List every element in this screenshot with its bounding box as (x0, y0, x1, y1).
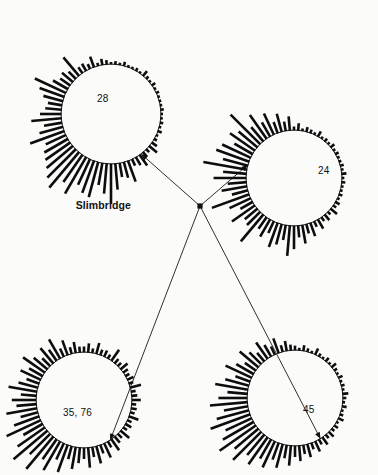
rose-bar (100, 445, 103, 454)
rose-outline-circle (246, 130, 342, 226)
rose-diagram-canvas: 282435, 7645Slimbridge (0, 0, 378, 475)
rose-bar (251, 127, 263, 142)
rose-bar (70, 347, 72, 354)
rose-bar (124, 162, 128, 178)
rose-bar (96, 343, 99, 354)
rose-bar (325, 214, 330, 220)
rose-bar (232, 190, 248, 194)
rose-bar (125, 424, 131, 428)
rose-bar (271, 347, 275, 355)
rose-bar (68, 446, 72, 459)
rose-bar (231, 115, 261, 145)
rose-bar (108, 441, 112, 447)
rose-bar (227, 392, 247, 394)
rose-outline-circle (36, 352, 132, 448)
rose-bar (21, 394, 37, 395)
rose-bar (14, 416, 39, 425)
rose-bar (264, 114, 274, 135)
rose-outline-circle (247, 350, 343, 446)
rose-bottom-right (210, 338, 348, 467)
rose-bar (92, 447, 94, 457)
rose-bar (260, 219, 270, 236)
rose-bar (74, 342, 76, 353)
rose-count-label: 28 (97, 93, 109, 104)
rose-bar (311, 443, 313, 450)
rose-bar (281, 345, 283, 352)
rose-bar (315, 441, 320, 451)
rose-bar (26, 379, 39, 384)
rose-bar (284, 445, 286, 458)
rose-bar (247, 212, 260, 225)
rose-bar (45, 108, 61, 109)
rose-count-label: 45 (303, 404, 315, 415)
rose-bar (78, 67, 82, 73)
rose-bar (228, 182, 247, 184)
rose-bar (274, 122, 278, 133)
rose-bar (44, 123, 62, 126)
rose-bar (222, 186, 248, 191)
rose-bar (88, 447, 90, 467)
rose-bar (82, 64, 86, 71)
rose-bar (60, 349, 64, 357)
rose-bar (136, 157, 141, 165)
rose-bar (21, 370, 41, 380)
labels-layer: 282435, 7645Slimbridge (63, 93, 330, 418)
rose-bar (284, 122, 286, 132)
rose-bar (224, 406, 248, 410)
rose-bar (223, 172, 247, 174)
rose-bar (120, 163, 123, 177)
rose-bar (289, 445, 291, 465)
rose-bar (48, 103, 62, 106)
rose-bar (115, 436, 120, 442)
rose-bar (115, 163, 117, 189)
rose-bar (99, 163, 103, 185)
rose-bar (16, 404, 36, 406)
rose-bar (72, 447, 76, 469)
rose-bar (129, 416, 139, 420)
rose-bar (298, 123, 299, 130)
rose-bar (289, 116, 290, 130)
rose-bar (285, 341, 287, 351)
rose-bar (104, 351, 107, 357)
rose-bar (306, 224, 309, 233)
connector-lines-layer (110, 154, 320, 440)
rose-bar (58, 445, 68, 472)
rose-top-left (30, 57, 164, 204)
rose-bar (283, 225, 286, 240)
connector-line (110, 206, 200, 440)
rose-bar (210, 402, 248, 405)
rose-bottom-left (6, 339, 141, 472)
rose-bar (303, 445, 305, 454)
rose-bar (88, 343, 89, 352)
rose-bar (31, 118, 61, 121)
rose-bar (298, 225, 299, 237)
rose-bar (127, 377, 133, 380)
rose-bar (104, 163, 107, 193)
rose-bar (90, 57, 94, 68)
rose-bar (287, 225, 290, 255)
rose-bar (330, 209, 337, 215)
rose-bar (307, 444, 311, 457)
rose-bar (299, 445, 300, 461)
rose-bar (322, 437, 327, 445)
connector-line (141, 154, 200, 206)
hub-node-layer (197, 203, 202, 208)
rose-diagram-figure: 282435, 7645Slimbridge (0, 0, 378, 475)
rose-bar (89, 162, 98, 197)
rose-bar (78, 447, 79, 463)
hub-label: Slimbridge (76, 199, 131, 211)
rose-bar (120, 363, 127, 369)
hub-node-marker (197, 203, 202, 208)
rose-count-label: 35, 76 (63, 407, 92, 418)
rose-bar (132, 159, 135, 166)
rose-bar (329, 432, 334, 437)
rose-bar (302, 225, 305, 244)
rose-count-label: 24 (318, 165, 330, 176)
rose-bar (315, 349, 318, 355)
connector-arrowhead (315, 432, 320, 439)
